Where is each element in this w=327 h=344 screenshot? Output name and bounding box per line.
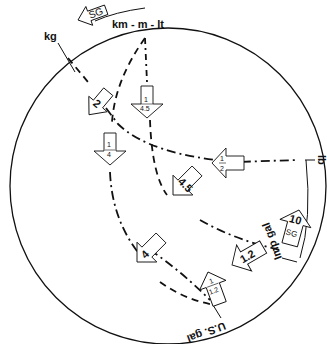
conversion-circle bbox=[10, 28, 326, 344]
path-4.5-down bbox=[150, 120, 167, 195]
us-tick bbox=[213, 305, 221, 318]
label-kg: kg bbox=[44, 30, 57, 42]
arrow-sg-outer: SG bbox=[75, 0, 110, 29]
path-quarter-to-4 bbox=[110, 172, 140, 255]
path-12-to-us bbox=[150, 250, 210, 300]
label-lb: lb bbox=[316, 155, 327, 165]
path-kg-to-center bbox=[68, 58, 88, 82]
path-m-down bbox=[145, 38, 147, 82]
svg-text:1: 1 bbox=[220, 155, 224, 162]
arrow-factor-1-over-1.2: 1 1.2 bbox=[195, 267, 233, 309]
arrow-factor-4.5: 4.5 bbox=[163, 161, 207, 205]
label-us-gal: U.S. gal bbox=[185, 320, 227, 344]
lb-imp-bracket bbox=[300, 160, 315, 258]
svg-text:1: 1 bbox=[107, 141, 111, 148]
arrow-factor-1-over-2: 1 2 bbox=[212, 148, 244, 178]
arrow-factor-1-over-4.5: 1 4.5 bbox=[131, 86, 163, 118]
svg-text:2: 2 bbox=[220, 165, 224, 172]
svg-text:1: 1 bbox=[144, 96, 148, 103]
path-2-to-half bbox=[106, 108, 298, 162]
arrow-factor-10-sg: 10 SG bbox=[274, 206, 314, 249]
kg-tick bbox=[58, 43, 75, 72]
arrow-factor-4: 4 bbox=[127, 228, 171, 272]
label-length: km - m - lt bbox=[112, 18, 164, 30]
svg-text:4: 4 bbox=[107, 151, 111, 158]
conversion-diagram: SG 2 1 4.5 1 4 1 2 4.5 4 1.2 bbox=[0, 0, 327, 344]
svg-text:4.5: 4.5 bbox=[140, 105, 150, 112]
imp-tick bbox=[282, 258, 297, 262]
arrow-factor-1-over-4: 1 4 bbox=[94, 133, 126, 165]
